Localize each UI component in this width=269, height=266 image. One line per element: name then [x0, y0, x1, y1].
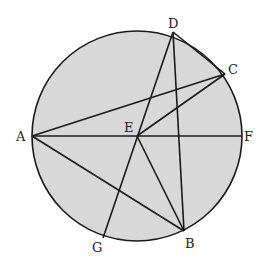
label-D: D	[168, 16, 178, 31]
label-F: F	[244, 129, 253, 144]
geometry-diagram: AEFDCBG	[0, 0, 269, 266]
label-G: G	[92, 240, 102, 255]
label-C: C	[228, 62, 238, 77]
label-A: A	[15, 129, 26, 144]
label-E: E	[124, 120, 134, 135]
label-B: B	[185, 236, 195, 251]
